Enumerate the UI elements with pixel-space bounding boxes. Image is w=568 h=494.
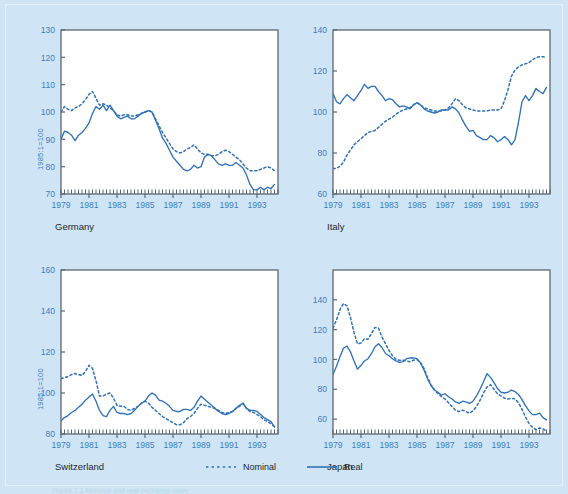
svg-text:70: 70 <box>45 189 55 199</box>
plot-germany: 7080901001101201301979198119831985198719… <box>28 22 284 222</box>
svg-text:1979: 1979 <box>51 200 70 210</box>
svg-text:1979: 1979 <box>323 200 342 210</box>
svg-text:1989: 1989 <box>191 440 210 450</box>
svg-text:1993: 1993 <box>247 440 266 450</box>
svg-text:100: 100 <box>313 355 328 365</box>
svg-text:1985: 1985 <box>135 200 154 210</box>
plot-italy: 6080100120140197919811983198519871989199… <box>300 22 556 222</box>
svg-text:120: 120 <box>313 325 328 335</box>
y-axis-label-germany: 1985:1=100 <box>36 128 45 170</box>
svg-text:1989: 1989 <box>463 200 482 210</box>
svg-text:1989: 1989 <box>191 200 210 210</box>
svg-text:1993: 1993 <box>519 200 538 210</box>
svg-text:1983: 1983 <box>107 200 126 210</box>
svg-text:1993: 1993 <box>519 440 538 450</box>
svg-text:160: 160 <box>41 265 56 275</box>
svg-text:1981: 1981 <box>79 200 98 210</box>
svg-text:80: 80 <box>317 148 327 158</box>
svg-text:120: 120 <box>41 347 56 357</box>
legend-entry-nominal: Nominal <box>205 462 276 472</box>
panel-title-germany: Germany <box>55 221 94 232</box>
panel-switzerland: 1985:1=100 80100120140160197919811983198… <box>28 262 284 482</box>
svg-text:1981: 1981 <box>351 440 370 450</box>
svg-text:140: 140 <box>313 295 328 305</box>
panel-title-switzerland: Switzerland <box>55 461 104 472</box>
svg-text:1979: 1979 <box>323 440 342 450</box>
panel-title-italy: Italy <box>327 221 344 232</box>
legend-label-nominal: Nominal <box>243 462 276 472</box>
chart-legend: Nominal Real <box>205 462 363 472</box>
figure-caption: Figure 7.1 Nominal and real exchange rat… <box>52 487 188 494</box>
panel-germany: 1985:1=100 70809010011012013019791981198… <box>28 22 284 242</box>
svg-text:1985: 1985 <box>407 440 426 450</box>
panel-italy: 6080100120140197919811983198519871989199… <box>300 22 556 242</box>
svg-text:130: 130 <box>41 25 56 35</box>
svg-text:110: 110 <box>41 80 55 90</box>
svg-text:120: 120 <box>313 66 328 76</box>
svg-text:140: 140 <box>313 25 328 35</box>
svg-text:80: 80 <box>45 162 55 172</box>
svg-text:1983: 1983 <box>379 200 398 210</box>
svg-text:60: 60 <box>317 414 327 424</box>
svg-text:90: 90 <box>45 135 55 145</box>
plot-switzerland: 8010012014016019791981198319851987198919… <box>28 262 284 462</box>
svg-text:1987: 1987 <box>163 200 182 210</box>
figure-container: 1985:1=100 70809010011012013019791981198… <box>0 0 568 494</box>
svg-text:1991: 1991 <box>491 200 510 210</box>
svg-text:1987: 1987 <box>435 440 454 450</box>
svg-text:1981: 1981 <box>79 440 98 450</box>
svg-text:1987: 1987 <box>435 200 454 210</box>
svg-text:1981: 1981 <box>351 200 370 210</box>
svg-text:1993: 1993 <box>247 200 266 210</box>
legend-label-real: Real <box>344 462 363 472</box>
svg-text:1987: 1987 <box>163 440 182 450</box>
svg-text:1983: 1983 <box>379 440 398 450</box>
svg-text:60: 60 <box>317 189 327 199</box>
svg-text:1979: 1979 <box>51 440 70 450</box>
svg-text:1989: 1989 <box>463 440 482 450</box>
svg-text:120: 120 <box>41 53 56 63</box>
svg-text:1985: 1985 <box>407 200 426 210</box>
svg-text:140: 140 <box>41 306 56 316</box>
svg-text:80: 80 <box>317 384 327 394</box>
svg-text:1985: 1985 <box>135 440 154 450</box>
svg-text:1983: 1983 <box>107 440 126 450</box>
svg-text:1991: 1991 <box>491 440 510 450</box>
svg-text:100: 100 <box>41 107 56 117</box>
legend-solid-line-icon <box>306 463 338 471</box>
svg-text:80: 80 <box>45 429 55 439</box>
panel-japan: 6080100120140197919811983198519871989199… <box>300 262 556 482</box>
y-axis-label-switzerland: 1985:1=100 <box>36 368 45 410</box>
legend-entry-real: Real <box>306 462 363 472</box>
svg-text:100: 100 <box>313 107 328 117</box>
legend-dotted-line-icon <box>205 463 237 471</box>
svg-text:1991: 1991 <box>219 440 238 450</box>
svg-text:1991: 1991 <box>219 200 238 210</box>
plot-japan: 6080100120140197919811983198519871989199… <box>300 262 556 462</box>
